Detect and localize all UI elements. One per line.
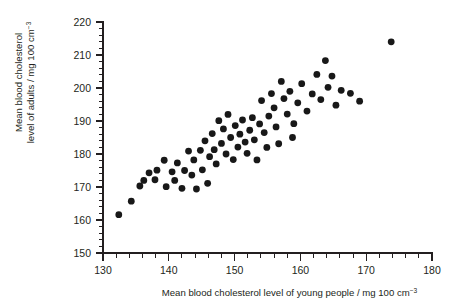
data-point: [140, 177, 147, 184]
data-point: [115, 211, 122, 218]
data-point: [304, 108, 311, 115]
x-axis-title-exponent: −3: [410, 287, 418, 294]
data-point: [204, 180, 211, 187]
y-axis-title-line2: level of adults / mg 100 cm−3: [25, 21, 36, 143]
plot-canvas: 1301401501601701801501601701801902002102…: [0, 0, 461, 303]
data-point: [225, 111, 232, 118]
data-point: [298, 80, 305, 87]
data-point: [246, 127, 253, 134]
axes-group: [103, 21, 433, 253]
data-point: [171, 177, 178, 184]
data-point: [325, 84, 332, 91]
data-point: [136, 183, 143, 190]
x-tick-labels: 130140150160170180: [94, 264, 441, 276]
data-point: [309, 91, 316, 98]
data-point: [388, 38, 395, 45]
y-axis-title-exponent: −3: [25, 21, 32, 29]
data-point: [227, 134, 234, 141]
y-tick-label: 200: [73, 82, 91, 94]
data-point: [169, 168, 176, 175]
data-point: [230, 156, 237, 163]
x-tick-label: 160: [292, 264, 310, 276]
data-point: [294, 99, 301, 106]
x-tick-label: 150: [226, 264, 244, 276]
data-point: [174, 160, 181, 167]
y-tick-label: 190: [73, 115, 91, 127]
data-point: [254, 157, 261, 164]
data-point: [251, 136, 258, 143]
data-point: [258, 97, 265, 104]
y-tick-label: 150: [73, 247, 91, 259]
data-point: [249, 114, 256, 121]
data-point: [236, 131, 243, 138]
data-point: [317, 96, 324, 103]
data-points-group: [115, 38, 394, 218]
data-point: [338, 87, 345, 94]
data-point: [152, 176, 159, 183]
y-tick-label: 210: [73, 49, 91, 61]
data-point: [128, 198, 135, 205]
data-point: [322, 57, 329, 64]
y-tick-label: 160: [73, 214, 91, 226]
data-point: [161, 157, 168, 164]
data-point: [199, 166, 206, 173]
data-point: [190, 157, 197, 164]
data-point: [213, 161, 220, 168]
data-point: [223, 151, 230, 158]
y-tick-label: 180: [73, 148, 91, 160]
data-point: [193, 186, 200, 193]
x-tick-label: 180: [423, 264, 441, 276]
data-point: [218, 140, 225, 147]
data-point: [329, 73, 336, 80]
data-point: [181, 167, 188, 174]
data-point: [265, 113, 272, 120]
data-point: [356, 98, 363, 105]
data-point: [220, 126, 227, 133]
data-point: [215, 117, 222, 124]
data-point: [202, 137, 209, 144]
y-tick-labels: 150160170180190200210220: [73, 16, 91, 259]
data-point: [239, 117, 246, 124]
data-point: [286, 88, 293, 95]
data-point: [234, 144, 241, 151]
y-axis-title-line1: Mean blood cholesterol: [13, 33, 24, 132]
data-point: [206, 153, 213, 160]
data-point: [281, 95, 288, 102]
data-point: [333, 102, 340, 109]
data-point: [179, 185, 186, 192]
data-point: [163, 183, 170, 190]
data-point: [313, 71, 320, 78]
data-point: [256, 121, 263, 128]
y-tick-label: 170: [73, 181, 91, 193]
y-tick-label: 220: [73, 16, 91, 28]
data-point: [197, 147, 204, 154]
data-point: [146, 169, 153, 176]
data-point: [211, 146, 218, 153]
data-point: [268, 90, 275, 97]
y-axis-ticks: [96, 22, 104, 253]
data-point: [209, 130, 216, 137]
data-point: [232, 122, 239, 129]
data-point: [290, 120, 297, 127]
data-point: [261, 129, 268, 136]
x-axis-ticks: [103, 253, 432, 261]
data-point: [273, 124, 280, 131]
data-point: [242, 139, 249, 146]
x-tick-label: 140: [160, 264, 178, 276]
data-point: [278, 78, 285, 85]
data-point: [271, 104, 278, 111]
data-point: [284, 111, 291, 118]
x-tick-label: 170: [357, 264, 375, 276]
data-point: [185, 148, 192, 155]
data-point: [188, 172, 195, 179]
data-point: [289, 134, 296, 141]
scatter-plot-figure: 1301401501601701801501601701801902002102…: [0, 0, 461, 303]
x-axis-title: Mean blood cholesterol level of young pe…: [162, 287, 418, 298]
data-point: [347, 90, 354, 97]
data-point: [244, 150, 251, 157]
data-point: [263, 144, 270, 151]
data-point: [154, 167, 161, 174]
x-tick-label: 130: [94, 264, 112, 276]
data-point: [275, 140, 282, 147]
